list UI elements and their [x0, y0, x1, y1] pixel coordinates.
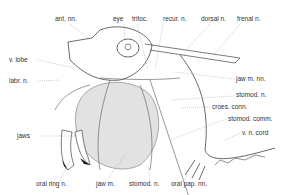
- label-oral-pap-nn: oral pap. nn.: [171, 181, 207, 188]
- label-v-n-cord: v. n. cord: [242, 130, 268, 137]
- label-labr-n: labr. n.: [9, 78, 29, 85]
- frenum-shape: [145, 44, 240, 63]
- label-eye: eye: [113, 16, 123, 23]
- label-tritoc: tritoc.: [132, 16, 148, 23]
- label-stomod-n-right: stomod. n.: [236, 92, 266, 99]
- label-dorsal-n: dorsal n.: [201, 16, 226, 23]
- label-stomod-comm: stomod. comm.: [228, 116, 272, 123]
- label-frenal-n: frenal n.: [237, 16, 261, 23]
- label-recur-n: recur. n.: [163, 16, 186, 23]
- label-oral-ring-n: oral ring n.: [36, 181, 67, 188]
- label-v-lobe: v. lobe: [9, 57, 28, 64]
- label-jaws: jaws: [17, 133, 30, 140]
- label-ant-nn: ant. nn.: [55, 16, 77, 23]
- label-croes-conn: croes. conn.: [212, 104, 247, 111]
- label-stomod-n-bottom: stomod. n.: [129, 181, 159, 188]
- label-jaw-m-nn: jaw m. nn.: [236, 76, 266, 83]
- label-jaw-m: jaw m.: [96, 181, 115, 188]
- head-shape: [68, 27, 152, 80]
